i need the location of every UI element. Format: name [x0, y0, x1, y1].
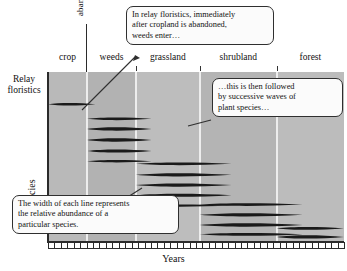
- callout-width-line3: particular species.: [18, 220, 173, 230]
- relay-floristics-figure: cropweedsgrasslandshrublandforest abando…: [0, 0, 347, 271]
- callout-width: The width of each line representsthe rel…: [12, 195, 179, 234]
- callout-width-line2: the relative abundance of a: [18, 209, 173, 219]
- callout-waves-line3: plant species…: [218, 103, 337, 113]
- leader-arrow-weeds: [133, 55, 140, 61]
- leader-line-waves: [188, 120, 211, 126]
- callout-waves: …this is then followedby successive wave…: [212, 78, 343, 117]
- callout-waves-line1: …this is then followed: [218, 82, 337, 92]
- callout-width-line1: The width of each line represents: [18, 199, 173, 209]
- callout-weeds-line1: In relay floristics, immediately: [132, 10, 268, 20]
- callout-weeds: In relay floristics, immediatelyafter cr…: [126, 6, 274, 45]
- callout-waves-line2: by successive waves of: [218, 92, 337, 102]
- callout-weeds-line2: after cropland is abandoned,: [132, 20, 268, 30]
- callout-weeds-line3: weeds enter…: [132, 31, 268, 41]
- leader-line-weeds: [82, 57, 135, 110]
